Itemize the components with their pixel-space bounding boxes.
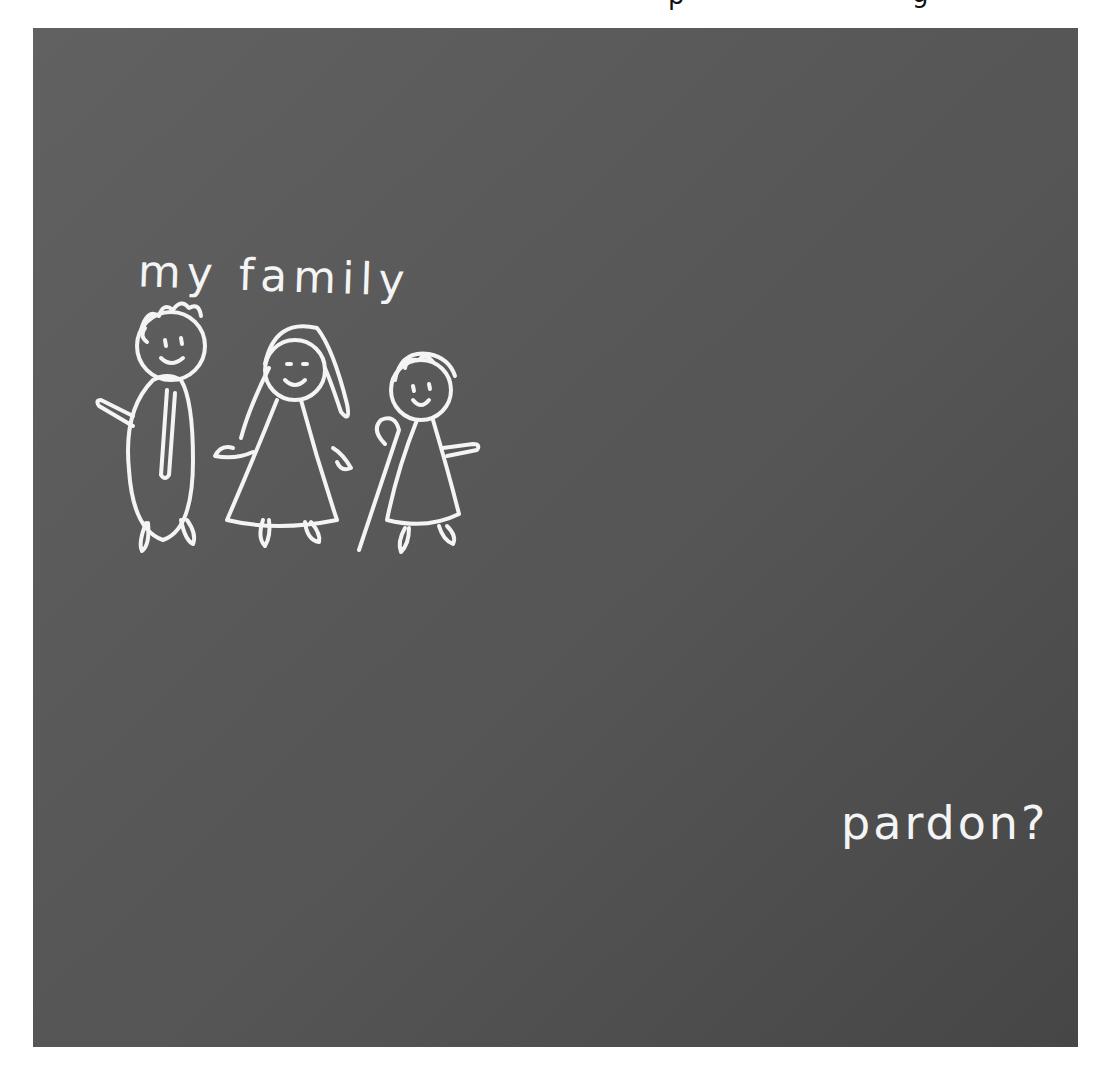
clipped-previous-text: p g bbox=[0, 0, 1110, 10]
clipped-glyph-p: p bbox=[668, 0, 685, 10]
speech-text: pardon? bbox=[841, 796, 1048, 850]
family-caption: my family bbox=[137, 245, 411, 305]
clipped-glyph-g: g bbox=[912, 0, 929, 8]
chalkboard-illustration bbox=[33, 28, 1078, 1047]
chalkboard: my family pardon? bbox=[33, 28, 1078, 1047]
